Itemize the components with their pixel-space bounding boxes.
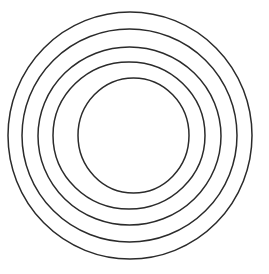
figure-canvas (0, 0, 269, 274)
figure-background (0, 0, 269, 274)
concentric-circles-figure (0, 0, 269, 274)
